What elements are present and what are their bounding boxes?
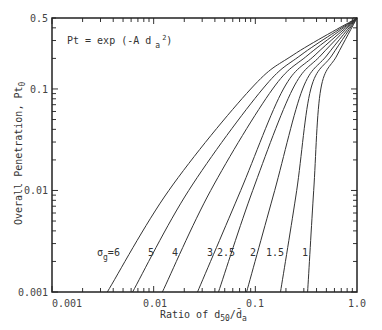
curve-label: 2 <box>250 247 256 258</box>
y-tick-0.01: 0.01 <box>24 185 48 196</box>
x-tick-0.1: 0.1 <box>246 298 264 309</box>
y-tick-0.1: 0.1 <box>30 84 48 95</box>
curve-sigma-2.5 <box>219 18 358 292</box>
curve-sigma-1.5 <box>281 18 358 292</box>
curve-label: σg=6 <box>97 247 120 262</box>
curve-label: 5 <box>148 247 154 258</box>
y-tick-0.001: 0.001 <box>18 287 48 298</box>
y-tick-0.5: 0.5 <box>30 13 48 24</box>
curve-sigma-4 <box>162 18 357 292</box>
x-tick-1.0: 1.0 <box>348 298 366 309</box>
x-tick-0.001: 0.001 <box>52 298 82 309</box>
curve-label: 2.5 <box>217 247 235 258</box>
x-tick-0.01: 0.01 <box>143 298 167 309</box>
equation-annotation: Pt = exp (-A da2) <box>67 34 172 50</box>
y-axis-title: Overall Penetration, Pt0 <box>13 82 27 225</box>
curve-label: 1.5 <box>266 247 284 258</box>
curve-label: 1 <box>302 247 308 258</box>
curve-sigma-1 <box>308 18 357 292</box>
curve-label: 3 <box>207 247 213 258</box>
curve-label: 4 <box>172 247 178 258</box>
x-axis-title: Ratio of d50/d̄a <box>160 308 247 323</box>
penetration-chart: 0.5 0.1 0.01 0.001 0.001 0.01 0.1 1.0 Ra… <box>0 0 382 330</box>
